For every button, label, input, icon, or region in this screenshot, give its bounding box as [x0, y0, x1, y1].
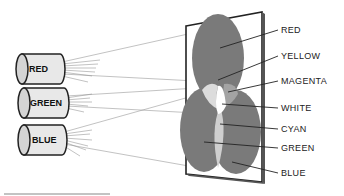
- light-source-green: GREEN: [18, 88, 69, 118]
- label-cyan: CYAN: [281, 124, 307, 134]
- label-magenta: MAGENTA: [281, 76, 327, 86]
- source-label-red: RED: [29, 64, 49, 74]
- color-mixing-diagram: RED YELLOW MAGENTA WHITE CYAN GREEN BLUE…: [0, 0, 344, 196]
- source-label-blue: BLUE: [32, 135, 57, 145]
- label-white: WHITE: [281, 103, 312, 113]
- source-label-green: GREEN: [30, 98, 62, 108]
- light-source-blue: BLUE: [18, 125, 67, 155]
- label-blue: BLUE: [281, 168, 306, 178]
- label-red: RED: [281, 25, 301, 35]
- light-source-red: RED: [16, 54, 65, 84]
- label-green: GREEN: [281, 143, 315, 153]
- region-labels: RED YELLOW MAGENTA WHITE CYAN GREEN BLUE: [281, 25, 327, 178]
- label-yellow: YELLOW: [281, 51, 321, 61]
